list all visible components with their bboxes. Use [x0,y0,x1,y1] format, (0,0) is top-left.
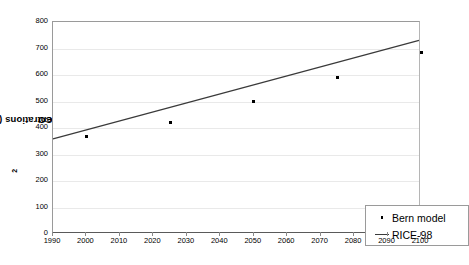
x-tick-label: 2100 [403,236,437,245]
x-tick-label: 1990 [35,236,69,245]
x-tick-mark [420,232,421,236]
x-tick-mark [219,232,220,236]
x-tick-label: 2010 [102,236,136,245]
y-tick-label: 800 [22,17,48,25]
y-tick-label: 700 [22,44,48,52]
dot-marker-icon [372,216,392,219]
y-axis-title-subscript: 2 [11,168,18,172]
y-tick-label: 300 [22,150,48,158]
x-tick-mark [52,232,53,236]
data-point-marker [336,76,339,79]
line-marker-icon [372,234,392,235]
x-tick-label: 2030 [169,236,203,245]
plot-area: Bern model RICE-98 [52,21,420,233]
x-tick-label: 2050 [236,236,270,245]
x-tick-label: 2060 [269,236,303,245]
data-point-marker [420,51,423,54]
data-point-marker [85,135,88,138]
x-axis-tick-labels: 1990200020102020203020402050206020702080… [52,236,420,250]
y-tick-label: 100 [22,203,48,211]
legend-label-bern-model: Bern model [392,212,446,224]
x-tick-mark [85,232,86,236]
series-layer [53,22,419,232]
x-tick-mark [320,232,321,236]
legend-item-bern-model: Bern model [366,209,468,226]
x-tick-mark [353,232,354,236]
x-tick-mark [387,232,388,236]
data-point-marker [252,100,255,103]
rice-98-trend-line [53,40,419,138]
x-tick-mark [119,232,120,236]
x-tick-mark [152,232,153,236]
x-tick-label: 2080 [336,236,370,245]
y-tick-label: 600 [22,70,48,78]
x-tick-mark [253,232,254,236]
x-tick-label: 2040 [202,236,236,245]
x-tick-label: 2090 [370,236,404,245]
x-tick-label: 2020 [135,236,169,245]
y-axis-title: CO2 concentrations (ppmv) [0,0,22,240]
x-tick-label: 2070 [303,236,337,245]
data-point-marker [169,121,172,124]
x-tick-mark [186,232,187,236]
y-tick-label: 200 [22,176,48,184]
x-tick-label: 2000 [68,236,102,245]
y-axis-tick-labels: 0100200300400500600700800 [20,21,48,233]
y-tick-label: 400 [22,123,48,131]
x-tick-mark [286,232,287,236]
y-tick-label: 500 [22,97,48,105]
